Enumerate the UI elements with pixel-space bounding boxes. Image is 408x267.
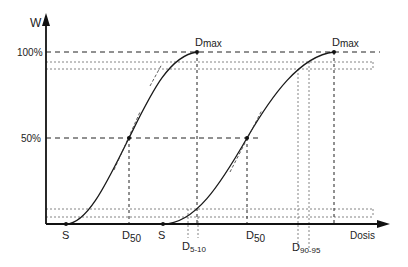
y-axis-arrow-icon (42, 13, 50, 26)
curve-2-d50-label: D50 (246, 229, 266, 244)
tick-50-label: 50% (21, 133, 41, 144)
curve-2-dmax-label: Dmax (332, 36, 359, 49)
y-axis-label: W (30, 16, 42, 30)
curve-1-threshold-label: S (62, 229, 69, 241)
curve-1-dmax-label: Dmax (195, 36, 222, 49)
upper-band (46, 62, 373, 69)
vertical-guides (129, 52, 334, 224)
curve-2-threshold-label: S (158, 229, 165, 241)
dose-response-diagram: W 100% 50% Dosis S D50 Dmax S D50 Dmax D… (0, 0, 408, 267)
x-axis-arrow-icon (377, 220, 390, 228)
range-guides (188, 62, 309, 250)
lower-band (46, 209, 373, 217)
tangent-marks (114, 64, 262, 172)
d90-95-label: D90-95 (292, 241, 321, 255)
tick-100-label: 100% (17, 47, 43, 58)
d5-10-label: D5-10 (182, 240, 207, 254)
x-axis-label: Dosis (350, 230, 375, 241)
curve-1-d50-label: D50 (122, 229, 142, 244)
